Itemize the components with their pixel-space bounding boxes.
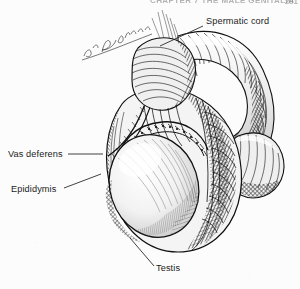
leader-testis	[130, 238, 154, 266]
leader-spermatic-cord	[160, 26, 203, 46]
label-vas-deferens: Vas deferens	[8, 149, 63, 159]
leader-lines	[0, 0, 300, 289]
leader-epididymis	[64, 174, 101, 188]
label-spermatic-cord: Spermatic cord	[206, 16, 269, 26]
label-epididymis: Epididymis	[11, 184, 56, 194]
scanned-page: CHAPTER 7 THE MALE GENITALIA 201	[0, 0, 300, 289]
label-testis: Testis	[156, 263, 180, 273]
